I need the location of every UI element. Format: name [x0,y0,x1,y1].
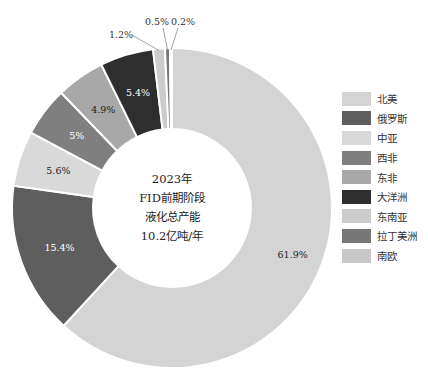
legend-swatch [342,249,371,263]
slice-value-label: 4.9% [91,104,115,115]
legend-item-north-america: 北美 [342,89,417,109]
legend-item-oceania: 大洋洲 [342,187,417,207]
legend: 北美 俄罗斯 中亚 西非 东非 大洋洲 东南亚 拉丁美洲 南欧 [342,89,417,265]
center-value: 10.2亿吨/年 [112,227,232,246]
legend-item-russia: 俄罗斯 [342,109,417,129]
legend-item-southern-europe: 南欧 [342,246,417,266]
slice-value-label: 15.4% [44,242,74,253]
legend-swatch [342,229,371,243]
legend-swatch [342,111,371,125]
legend-swatch [342,92,371,106]
center-year: 2023年 [112,170,232,189]
legend-item-west-africa: 西非 [342,148,417,168]
slice-value-label: 1.2% [109,29,133,40]
slice-value-label: 61.9% [278,249,308,260]
center-metric: 液化总产能 [112,208,232,227]
slice-value-label: 5.6% [46,165,70,176]
legend-swatch [342,151,371,165]
center-stage: FID前期阶段 [112,189,232,208]
slice-value-label: 5.4% [126,87,150,98]
slice-value-label: 0.2% [171,16,195,27]
leader-line [132,35,159,51]
slice-value-label: 0.5% [145,16,169,27]
leader-line [171,28,178,50]
legend-item-southeast-asia: 东南亚 [342,207,417,227]
legend-item-central-asia: 中亚 [342,128,417,148]
center-label: 2023年 FID前期阶段 液化总产能 10.2亿吨/年 [112,170,232,246]
legend-swatch [342,190,371,204]
legend-swatch [342,209,371,223]
legend-item-latin-america: 拉丁美洲 [342,226,417,246]
legend-swatch [342,170,371,184]
legend-item-east-africa: 东非 [342,167,417,187]
leader-line [163,28,168,50]
donut-slice [170,48,172,129]
slice-value-label: 5% [69,130,84,141]
legend-swatch [342,131,371,145]
